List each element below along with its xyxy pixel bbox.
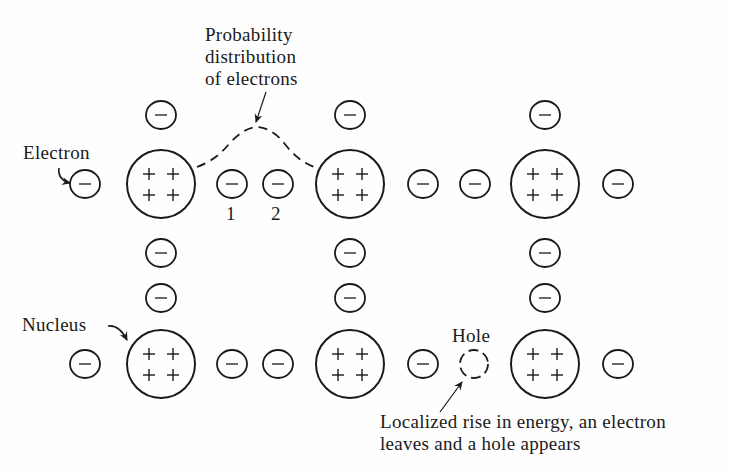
- electrons-group: [70, 101, 633, 378]
- electron-label: Electron: [23, 142, 90, 164]
- probability-label-line-1: Probability: [205, 24, 293, 46]
- electron: [530, 101, 560, 129]
- electron-2-label: 2: [271, 203, 281, 225]
- hole-dashed-circle: [460, 350, 488, 378]
- nuclei-group: [127, 150, 579, 398]
- electron: [460, 170, 490, 198]
- nucleus: [127, 330, 195, 398]
- electron: [603, 170, 633, 198]
- electron: [146, 101, 176, 129]
- probability-arrow: [256, 92, 266, 122]
- electron: [530, 239, 560, 267]
- electron: [335, 239, 365, 267]
- electron: [146, 239, 176, 267]
- nucleus: [127, 150, 195, 218]
- electron: [408, 350, 438, 378]
- electron: [217, 170, 247, 198]
- electron: [408, 170, 438, 198]
- nucleus-label: Nucleus: [22, 314, 86, 336]
- electron: [603, 350, 633, 378]
- nucleus: [511, 150, 579, 218]
- electron-1-label: 1: [226, 203, 236, 225]
- hole-group: [460, 350, 488, 378]
- electron: [70, 170, 100, 198]
- energy-note-line-1: Localized rise in energy, an electron: [380, 411, 666, 433]
- electron: [335, 284, 365, 312]
- electron: [530, 284, 560, 312]
- energy-note-line-2: leaves and a hole appears: [380, 433, 581, 455]
- electron: [263, 350, 293, 378]
- diagram-canvas: Probability distribution of electrons El…: [0, 0, 732, 474]
- electron: [217, 350, 247, 378]
- hole-label: Hole: [452, 325, 490, 347]
- probability-label-line-3: of electrons: [205, 68, 298, 90]
- lattice-drawing: [0, 0, 732, 474]
- nucleus-label-arrow: [108, 326, 127, 340]
- electron: [146, 284, 176, 312]
- nucleus: [316, 330, 384, 398]
- probability-distribution-curve: [197, 127, 318, 168]
- nucleus: [511, 330, 579, 398]
- nucleus: [316, 150, 384, 218]
- electron-label-arrow: [59, 168, 70, 183]
- hole-note-arrow: [440, 382, 462, 412]
- electron: [263, 170, 293, 198]
- electron: [335, 101, 365, 129]
- electron: [70, 350, 100, 378]
- probability-label-line-2: distribution: [205, 46, 296, 68]
